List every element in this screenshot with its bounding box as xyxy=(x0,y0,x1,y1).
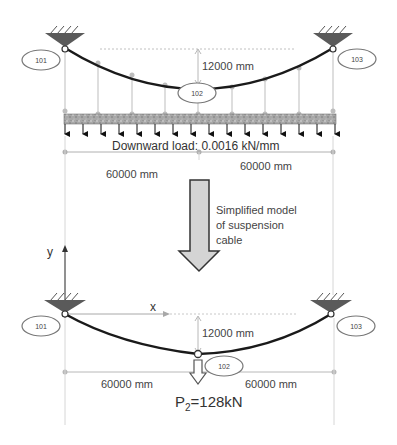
right-pin-icon xyxy=(330,46,336,52)
node-103-top: 103 xyxy=(338,49,376,69)
simplification-arrow-icon xyxy=(179,180,219,271)
bottom-sag-label: 12000 mm xyxy=(202,327,254,339)
node-102-top: 102 xyxy=(178,83,216,103)
node-102-bottom: 102 xyxy=(205,356,243,376)
y-axis-label: y xyxy=(47,245,53,259)
node-101-bottom: 101 xyxy=(22,316,60,336)
bottom-model: y x 12000 mm xyxy=(22,245,375,425)
left-support-icon xyxy=(45,26,85,47)
point-load-label: P2=128kN xyxy=(175,393,243,413)
svg-text:102: 102 xyxy=(218,363,230,370)
node-101-top: 101 xyxy=(22,50,60,70)
suspension-cable-diagram: 12000 mm xyxy=(0,0,397,445)
svg-text:101: 101 xyxy=(35,57,47,64)
load-label: Downward load: 0.0016 kN/mm xyxy=(112,139,279,153)
svg-text:101: 101 xyxy=(35,323,47,330)
right-support-icon xyxy=(313,26,353,47)
top-span-left-label: 60000 mm xyxy=(106,168,158,180)
x-axis-label: x xyxy=(150,300,156,314)
svg-text:103: 103 xyxy=(350,323,362,330)
right-support-bottom-icon xyxy=(310,293,352,313)
node-103-bottom: 103 xyxy=(337,316,375,336)
left-pin-icon xyxy=(62,46,68,52)
top-sag-label: 12000 mm xyxy=(202,60,254,72)
transition-label-line2: of suspension xyxy=(216,219,284,231)
distributed-load-arrows xyxy=(65,124,335,134)
bottom-span-right-label: 60000 mm xyxy=(245,378,297,390)
top-span-right-label: 60000 mm xyxy=(240,160,292,172)
bridge-deck xyxy=(64,114,336,124)
svg-text:103: 103 xyxy=(351,56,363,63)
bottom-span-left-label: 60000 mm xyxy=(101,378,153,390)
transition-label-line3: cable xyxy=(216,234,242,246)
center-node-pin-icon xyxy=(195,351,202,358)
transition-label-line1: Simplified model xyxy=(216,204,297,216)
svg-text:102: 102 xyxy=(191,90,203,97)
